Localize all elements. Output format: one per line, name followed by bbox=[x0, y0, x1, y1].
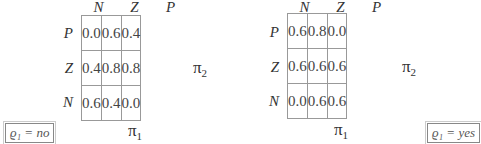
row-label: P bbox=[53, 25, 73, 42]
grid-row: 0.6 0.8 0.0 bbox=[288, 14, 347, 49]
grid-cell: 0.6 bbox=[101, 16, 121, 51]
grid-cell: 0.0 bbox=[327, 14, 347, 49]
x-axis-label: π1 bbox=[334, 120, 348, 141]
grid-row: 0.4 0.8 0.8 bbox=[82, 51, 141, 86]
x-axis-label: π1 bbox=[128, 121, 142, 142]
grid-row: 0.6 0.4 0.0 bbox=[82, 86, 141, 121]
row-label: N bbox=[259, 93, 279, 110]
condition-tag: ϱ₁ = no bbox=[5, 123, 54, 143]
grid-cell: 0.6 bbox=[327, 49, 347, 84]
grid-row: 0.0 0.6 0.4 bbox=[82, 16, 141, 51]
col-label: Z bbox=[117, 0, 152, 16]
grid-row: 0.6 0.6 0.6 bbox=[288, 49, 347, 84]
condition-tag: ϱ₁ = yes bbox=[427, 123, 480, 143]
grid-cell: 0.6 bbox=[307, 49, 327, 84]
grid-cell: 0.6 bbox=[82, 86, 102, 121]
grid-cell: 0.6 bbox=[288, 49, 308, 84]
grid-cell: 0.6 bbox=[307, 84, 327, 119]
col-label: P bbox=[153, 0, 188, 16]
grid-cell: 0.0 bbox=[82, 16, 102, 51]
grid-cell: 0.4 bbox=[82, 51, 102, 86]
grid-cell: 0.0 bbox=[288, 84, 308, 119]
value-grid: 0.6 0.8 0.0 0.6 0.6 0.6 0.0 0.6 0.6 bbox=[287, 13, 347, 119]
row-label: Z bbox=[53, 60, 73, 77]
y-axis-label: π2 bbox=[193, 58, 207, 79]
row-label: P bbox=[259, 24, 279, 41]
grid-cell: 0.4 bbox=[101, 86, 121, 121]
grid-row: 0.0 0.6 0.6 bbox=[288, 84, 347, 119]
grid-cell: 0.0 bbox=[121, 86, 141, 121]
col-label: N bbox=[81, 0, 116, 16]
col-label: P bbox=[359, 0, 394, 16]
row-label: N bbox=[53, 94, 73, 111]
row-label: Z bbox=[259, 59, 279, 76]
grid-cell: 0.8 bbox=[307, 14, 327, 49]
grid-cell: 0.6 bbox=[327, 84, 347, 119]
grid-cell: 0.8 bbox=[121, 51, 141, 86]
grid-cell: 0.8 bbox=[101, 51, 121, 86]
value-grid: 0.0 0.6 0.4 0.4 0.8 0.8 0.6 0.4 0.0 bbox=[81, 15, 141, 121]
y-axis-label: π2 bbox=[402, 57, 416, 78]
grid-cell: 0.6 bbox=[288, 14, 308, 49]
grid-cell: 0.4 bbox=[121, 16, 141, 51]
